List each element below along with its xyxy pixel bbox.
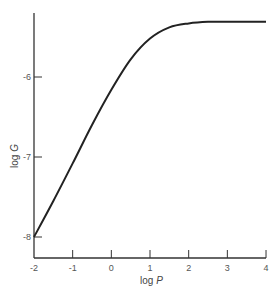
x-tick-label: -1 [69,263,77,273]
y-tick-label: -8 [23,232,31,242]
y-ticks: -8-7-6 [23,72,42,242]
x-tick-label: 4 [264,263,269,273]
x-tick-label: 2 [186,263,191,273]
chart: -2-101234 -8-7-6 log P log G [0,0,276,293]
x-ticks: -2-101234 [30,250,269,273]
y-tick-label: -7 [23,152,31,162]
y-axis-label: log G [9,144,20,168]
x-axis-label: log P [140,275,163,286]
x-tick-label: -2 [30,263,38,273]
x-tick-label: 0 [109,263,114,273]
data-line [34,22,266,237]
x-tick-label: 3 [225,263,230,273]
axes [34,13,266,258]
y-tick-label: -6 [23,72,31,82]
x-tick-label: 1 [148,263,153,273]
